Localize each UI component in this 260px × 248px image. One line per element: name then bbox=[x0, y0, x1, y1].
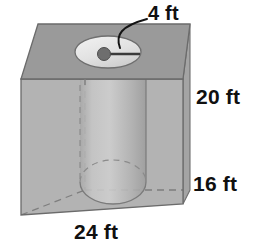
cylinder-center-point bbox=[98, 48, 111, 61]
height-label: 20 ft bbox=[196, 85, 240, 109]
width-label: 24 ft bbox=[74, 220, 118, 244]
geometry-figure: 4 ft 20 ft 16 ft 24 ft bbox=[0, 0, 260, 248]
depth-label: 16 ft bbox=[193, 172, 237, 196]
prism-with-cylinder-drawing bbox=[0, 0, 260, 248]
radius-label: 4 ft bbox=[148, 2, 179, 25]
